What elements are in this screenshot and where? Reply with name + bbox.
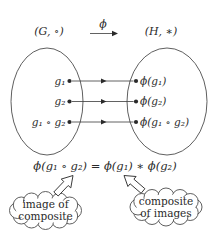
map-function-label: ϕ [99, 18, 107, 31]
map-arrow-head-icon [112, 31, 118, 36]
callout-text-line: of images [140, 207, 191, 219]
callout-left-cloud: image of composite [10, 176, 82, 230]
codomain-element-dot [134, 99, 138, 103]
callout-text-line: composite [139, 195, 193, 207]
callout-text-line: composite [18, 210, 72, 222]
domain-element-dot [67, 120, 71, 124]
codomain-element-label: ϕ(g₁) [140, 75, 166, 87]
map-arrow-group: ϕ [90, 18, 118, 36]
codomain-element-dot [134, 120, 138, 124]
codomain-ellipse [127, 48, 207, 155]
mapsto-arrow-head-icon [101, 120, 107, 125]
domain-element-dot [67, 99, 71, 103]
mapping-row: g₂ ϕ(g₂) [55, 95, 167, 107]
codomain-element-dot [134, 79, 138, 83]
diagram-canvas: ϕ (G, ∘) (H, ∗) g₁ ϕ(g₁) g₂ ϕ(g₂) g₁ ∘ g… [0, 0, 209, 237]
codomain-element-label: ϕ(g₂) [140, 95, 166, 107]
homomorphism-diagram: ϕ (G, ∘) (H, ∗) g₁ ϕ(g₁) g₂ ϕ(g₂) g₁ ∘ g… [0, 0, 209, 237]
callout-arrow-up-icon [54, 176, 73, 197]
callout-text-line: image of [22, 198, 69, 210]
domain-element-label: g₂ [55, 95, 66, 107]
domain-set-label: (G, ∘) [34, 25, 63, 38]
domain-element-label: g₁ [55, 75, 66, 87]
homomorphism-equation: ϕ(g₁ ∘ g₂) = ϕ(g₁) ∗ ϕ(g₂) [33, 159, 176, 173]
codomain-set-label: (H, ∗) [145, 25, 178, 38]
domain-element-label: g₁ ∘ g₂ [32, 116, 66, 128]
mapping-row: g₁ ϕ(g₁) [55, 75, 167, 87]
callout-arrow-up-icon [124, 176, 145, 194]
domain-element-dot [67, 79, 71, 83]
codomain-element-label: ϕ(g₁ ∘ g₂) [140, 116, 189, 128]
mapping-row: g₁ ∘ g₂ ϕ(g₁ ∘ g₂) [32, 116, 189, 128]
mapsto-arrow-head-icon [101, 99, 107, 104]
mapsto-arrow-head-icon [101, 79, 107, 84]
callout-right-cloud: composite of images [124, 176, 202, 227]
